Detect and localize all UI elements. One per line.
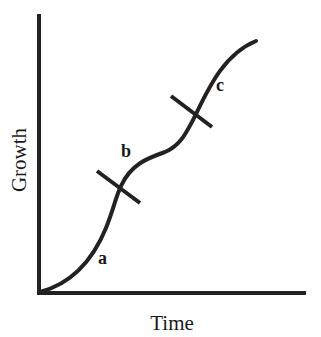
label-b: b: [121, 141, 131, 161]
growth-diagram: a b c Time Growth: [0, 0, 321, 337]
label-a: a: [98, 248, 107, 268]
y-axis-title: Growth: [7, 127, 31, 192]
label-c: c: [216, 75, 224, 95]
inflection-marker-1: [97, 171, 140, 203]
x-axis-title: Time: [150, 311, 194, 335]
